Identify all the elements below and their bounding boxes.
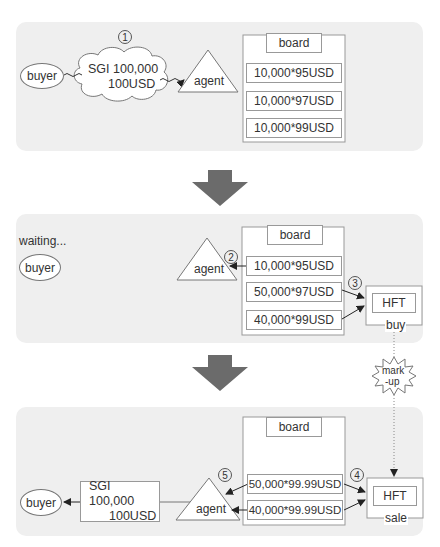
- board-row: 10,000*95USD: [246, 63, 342, 83]
- step-5-badge: 5: [218, 468, 232, 482]
- board-row: 40,000*99.99USD: [247, 500, 343, 520]
- result-line-2: 100USD: [89, 509, 156, 524]
- hft-node: HFT: [372, 293, 416, 313]
- buyer-node: buyer: [20, 63, 64, 89]
- result-line-1: SGI 100,000: [89, 479, 159, 509]
- step-2-badge: 2: [224, 250, 238, 264]
- board-title: board: [267, 225, 323, 245]
- board-title: board: [266, 33, 322, 53]
- step-4-badge: 4: [350, 468, 364, 482]
- down-arrow-icon: [192, 355, 248, 391]
- agent-label: agent: [196, 502, 226, 516]
- buyer-node: buyer: [19, 254, 61, 281]
- board-row: 50,000*97USD: [246, 282, 342, 302]
- step-1-badge: 1: [118, 30, 132, 44]
- hft-action-buy: buy: [385, 318, 406, 332]
- hft-node: HFT: [373, 486, 417, 506]
- board-row: 50,000*99.99USD: [247, 474, 343, 494]
- board-title: board: [266, 417, 322, 437]
- markup-line-2: -up: [385, 376, 399, 387]
- buyer-node: buyer: [20, 489, 62, 516]
- hft-action-sale: sale: [384, 511, 408, 525]
- order-line-2: 100USD: [108, 77, 155, 91]
- board-row: 40,000*99USD: [246, 310, 342, 330]
- board-row: 10,000*95USD: [246, 256, 342, 276]
- markup-line-1: mark: [382, 365, 404, 376]
- result-box: SGI 100,000 100USD: [80, 481, 160, 522]
- board-row: 10,000*97USD: [246, 91, 342, 111]
- waiting-status: waiting...: [19, 234, 66, 248]
- agent-label: agent: [194, 74, 224, 88]
- step-3-badge: 3: [348, 276, 362, 290]
- board-row: 10,000*99USD: [246, 118, 342, 138]
- order-line-1: SGI 100,000: [88, 62, 158, 76]
- down-arrow-icon: [192, 170, 248, 206]
- agent-label: agent: [194, 262, 224, 276]
